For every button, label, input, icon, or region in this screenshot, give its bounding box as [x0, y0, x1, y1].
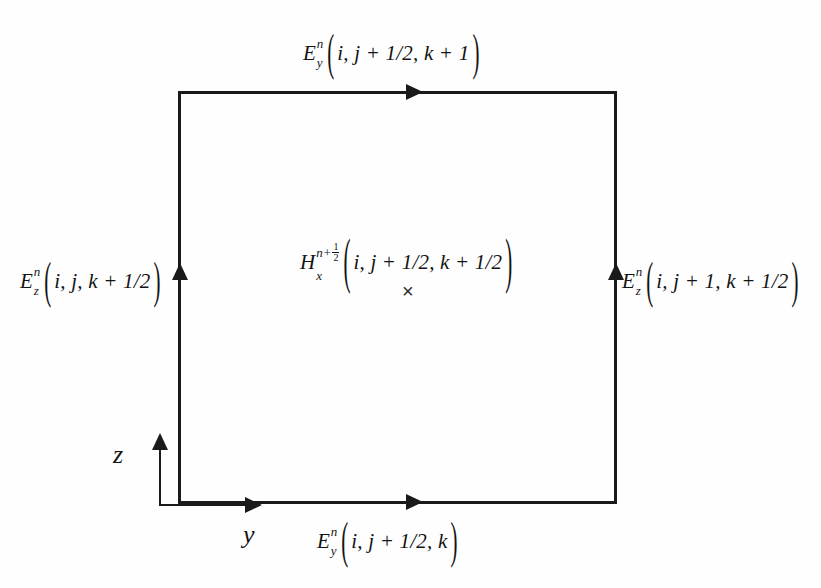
field-symbol-h: H — [300, 252, 315, 273]
contour-right-edge — [614, 91, 617, 504]
axis-z-line — [159, 448, 161, 506]
field-symbol-e: E — [303, 43, 316, 64]
open-paren: ( — [341, 515, 348, 566]
contour-bottom-arrow-icon — [406, 494, 423, 510]
field-indices: n z — [34, 268, 41, 294]
field-indices: n y — [317, 40, 324, 66]
axis-y-line — [159, 504, 247, 506]
field-arguments: i, j + 1/2, k + 1/2 — [353, 252, 502, 273]
label-e-y-bottom: E n y ( i, j + 1/2, k ) — [317, 528, 460, 554]
field-indices: n+ 1 2 x — [316, 245, 339, 279]
field-arguments: i, j, k + 1/2 — [54, 271, 150, 292]
open-paren: ( — [646, 255, 653, 306]
close-paren: ) — [791, 255, 798, 306]
contour-left-edge — [178, 91, 181, 504]
field-arguments: i, j + 1, k + 1/2 — [656, 271, 788, 292]
open-paren: ( — [343, 232, 350, 293]
open-paren: ( — [327, 27, 334, 78]
close-paren: ) — [472, 27, 479, 78]
field-symbol-e: E — [20, 271, 33, 292]
label-e-z-left: E n z ( i, j, k + 1/2 ) — [20, 268, 163, 294]
field-indices: n z — [636, 268, 643, 294]
label-e-z-right: E n z ( i, j + 1, k + 1/2 ) — [622, 268, 801, 294]
close-paren: ) — [153, 255, 160, 306]
close-paren: ) — [505, 232, 512, 293]
contour-top-arrow-icon — [406, 84, 423, 100]
axis-y-arrow-icon — [245, 497, 262, 513]
axis-z-label: z — [113, 440, 123, 470]
field-arguments: i, j + 1/2, k + 1 — [337, 43, 469, 64]
label-e-y-top: E n y ( i, j + 1/2, k + 1 ) — [303, 40, 482, 66]
field-indices: n y — [331, 528, 338, 554]
h-field-into-page-marker-icon: × — [402, 281, 414, 301]
contour-top-edge — [178, 91, 617, 94]
half-fraction: 1 2 — [332, 242, 339, 263]
contour-left-arrow-icon — [172, 263, 188, 280]
field-symbol-e: E — [317, 531, 330, 552]
close-paren: ) — [450, 515, 457, 566]
field-symbol-e: E — [622, 271, 635, 292]
label-h-x-center: H n+ 1 2 x ( i, j + 1/2, k + 1/2 ) — [300, 245, 515, 279]
axis-z-arrow-icon — [152, 433, 168, 450]
open-paren: ( — [44, 255, 51, 306]
superscript-n-plus-half: n+ 1 2 — [316, 242, 339, 263]
figure-canvas: E n y ( i, j + 1/2, k + 1 ) E n z ( i, j… — [0, 0, 821, 588]
axis-y-label: y — [243, 520, 255, 550]
field-arguments: i, j + 1/2, k — [351, 531, 447, 552]
